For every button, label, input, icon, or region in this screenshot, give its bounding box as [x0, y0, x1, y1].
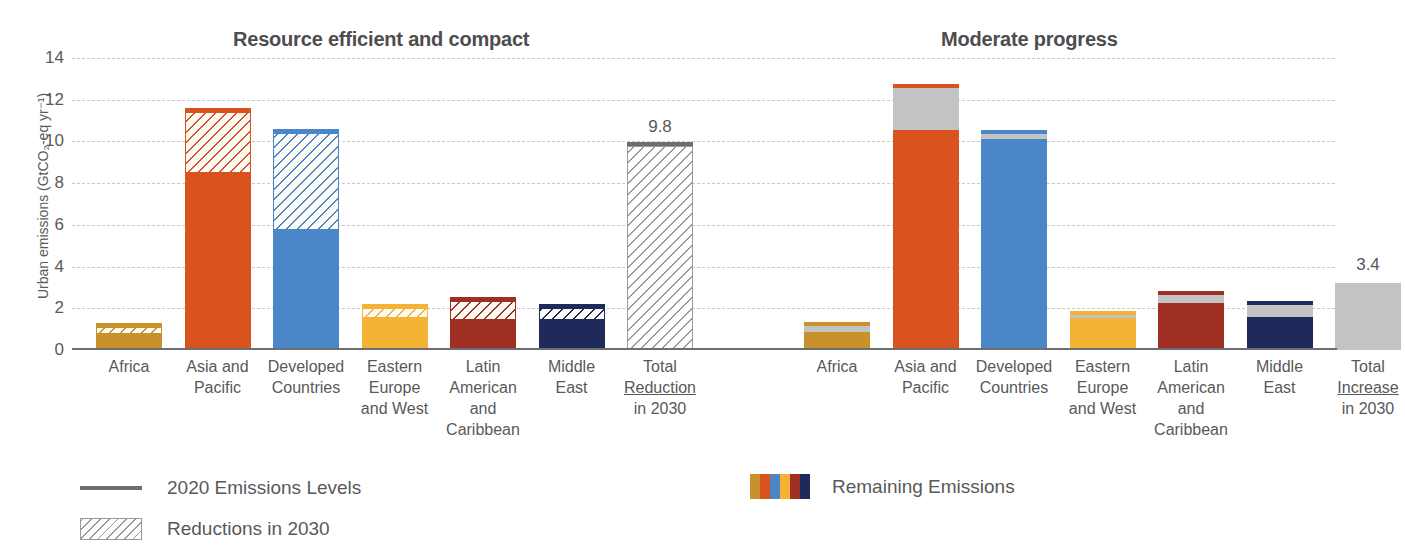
- legend-2020-levels: 2020 Emissions Levels: [80, 477, 361, 499]
- legend-remaining-emissions: Remaining Emissions: [750, 474, 1015, 499]
- emissions-2020-level-line: [539, 304, 605, 308]
- y-tick-label: 8: [18, 173, 64, 193]
- gridline: [72, 100, 1337, 101]
- bar[interactable]: [185, 112, 251, 350]
- bar-segment-remaining: [1158, 303, 1224, 350]
- panel-title-left: Resource efficient and compact: [233, 28, 529, 51]
- bar[interactable]: [893, 88, 959, 350]
- legend-hatch-swatch-icon: [80, 518, 142, 540]
- bar-group[interactable]: [1247, 305, 1313, 350]
- y-tick-label: 2: [18, 298, 64, 318]
- bar-group[interactable]: [1158, 295, 1224, 350]
- bar[interactable]: [273, 133, 339, 350]
- x-axis-label: EasternEuropeand West: [1057, 356, 1149, 419]
- gridline: [72, 225, 1337, 226]
- bar-segment-remaining: [362, 318, 428, 350]
- emissions-2020-level-line: [362, 304, 428, 308]
- bar-segment-remaining: [539, 320, 605, 350]
- legend-remaining-label: Remaining Emissions: [832, 476, 1015, 498]
- bar[interactable]: [1158, 295, 1224, 350]
- bar-group[interactable]: [362, 308, 428, 350]
- legend-color-chip: [760, 474, 770, 499]
- y-axis-ticks: 14121086420: [18, 0, 64, 560]
- bar[interactable]: [539, 308, 605, 350]
- legend-reductions-label: Reductions in 2030: [167, 518, 330, 540]
- x-axis-label: DevelopedCountries: [968, 356, 1060, 398]
- x-axis-line: [72, 348, 1337, 351]
- legend-color-chip: [800, 474, 810, 499]
- x-axis-label: EasternEuropeand West: [349, 356, 441, 419]
- bar-segment-remaining: [981, 139, 1047, 350]
- bar-segment-reduction: [185, 112, 251, 172]
- bar-group[interactable]: [273, 133, 339, 350]
- bar-segment-remaining: [185, 173, 251, 350]
- emissions-2020-level-line: [893, 84, 959, 88]
- bar-segment-reduction: [450, 301, 516, 320]
- bar-group[interactable]: [1070, 315, 1136, 350]
- legend-remaining-swatch-icon: [750, 474, 810, 499]
- bar-segment-remaining: [1247, 317, 1313, 350]
- x-axis-label: Asia andPacific: [172, 356, 264, 398]
- emissions-2020-level-line: [96, 323, 162, 327]
- emissions-2020-level-line: [273, 129, 339, 133]
- bar-group[interactable]: [185, 112, 251, 350]
- gridline: [72, 58, 1337, 59]
- x-axis-label: TotalIncreasein 2030: [1322, 356, 1405, 419]
- gridline: [72, 183, 1337, 184]
- bar[interactable]: [1247, 305, 1313, 350]
- bar[interactable]: [450, 301, 516, 350]
- legend-color-chip: [780, 474, 790, 499]
- gridline: [72, 308, 1337, 309]
- y-tick-label: 12: [18, 90, 64, 110]
- bar-segment-reduction: [362, 308, 428, 317]
- bar-segment-remaining: [1070, 318, 1136, 350]
- bar-segment-increase: [893, 88, 959, 130]
- panel-title-right: Moderate progress: [941, 28, 1118, 51]
- x-axis-label: MiddleEast: [1234, 356, 1326, 398]
- emissions-2020-level-line: [627, 142, 693, 146]
- bar[interactable]: [981, 134, 1047, 350]
- bar-segment-increase: [1158, 295, 1224, 303]
- bar-segment-remaining: [893, 130, 959, 350]
- x-axis-label: Africa: [791, 356, 883, 377]
- x-axis-label: LatinAmericanandCaribbean: [437, 356, 529, 440]
- bar-segment-remaining: [450, 320, 516, 350]
- x-axis-label: Africa: [83, 356, 175, 377]
- bar-group[interactable]: [539, 308, 605, 350]
- gridline: [72, 267, 1337, 268]
- bar-group[interactable]: 9.8: [627, 146, 693, 350]
- bar-group[interactable]: [981, 134, 1047, 350]
- legend-color-chip: [750, 474, 760, 499]
- bar[interactable]: [804, 326, 870, 350]
- bar[interactable]: [1070, 315, 1136, 350]
- bar[interactable]: [1335, 283, 1401, 350]
- y-tick-label: 6: [18, 215, 64, 235]
- emissions-2020-level-line: [804, 322, 870, 326]
- bar-segment-increase: [1247, 305, 1313, 316]
- bar-value-label: 3.4: [1356, 255, 1380, 275]
- y-tick-label: 14: [18, 48, 64, 68]
- bar-segment-reduction: [96, 327, 162, 334]
- x-axis-label: Asia andPacific: [880, 356, 972, 398]
- bar-group[interactable]: [804, 326, 870, 350]
- bar[interactable]: [362, 308, 428, 350]
- x-axis-label: DevelopedCountries: [260, 356, 352, 398]
- plot-area: 9.83.4: [72, 58, 1337, 350]
- y-tick-label: 0: [18, 340, 64, 360]
- legend-reductions: Reductions in 2030: [80, 518, 330, 540]
- bar-segment-remaining: [273, 230, 339, 350]
- emissions-2020-level-line: [981, 130, 1047, 134]
- bar-segment-reduction: [539, 308, 605, 319]
- bar-value-label: 9.8: [648, 117, 672, 137]
- bar-group[interactable]: 3.4: [1335, 283, 1401, 350]
- bar-group[interactable]: [450, 301, 516, 350]
- legend-2020-levels-label: 2020 Emissions Levels: [167, 477, 361, 499]
- gridline: [72, 141, 1337, 142]
- bar[interactable]: [627, 146, 693, 350]
- x-axis-label: TotalReductionin 2030: [614, 356, 706, 419]
- y-tick-label: 10: [18, 131, 64, 151]
- x-axis-label: MiddleEast: [526, 356, 618, 398]
- legend-color-chip: [790, 474, 800, 499]
- bar-group[interactable]: [893, 88, 959, 350]
- emissions-2020-level-line: [1247, 301, 1313, 305]
